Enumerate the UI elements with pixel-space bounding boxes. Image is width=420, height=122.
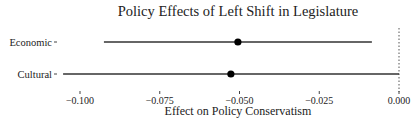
y-tick-label: Economic — [9, 37, 52, 48]
coefficient-plot: Policy Effects of Left Shift in Legislat… — [0, 0, 420, 122]
y-tick-label: Cultural — [18, 69, 52, 80]
x-axis-label: Effect on Policy Conservatism — [0, 104, 420, 119]
point-estimate — [234, 38, 241, 45]
point-estimate — [227, 70, 234, 77]
